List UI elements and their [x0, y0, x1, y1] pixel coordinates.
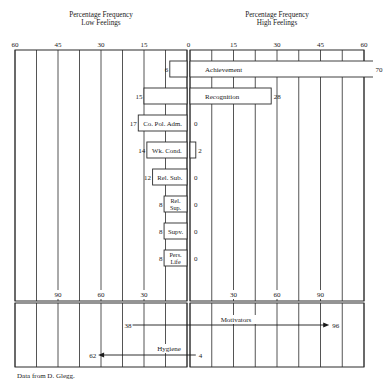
category-label-line2: Life [170, 258, 181, 265]
low-value-label: 14 [138, 147, 146, 155]
top-tick-high: 45 [317, 41, 325, 49]
bar-row-pers-life: Pers.Life80 [159, 250, 198, 266]
top-tick-low: 30 [98, 41, 106, 49]
summary-label: Motivators [221, 316, 252, 324]
low-value-label: 8 [159, 201, 163, 209]
summary-axis: 906030306090 [52, 290, 327, 299]
top-tick-high: 15 [230, 41, 238, 49]
low-value-label: 15 [136, 93, 144, 101]
source-note: Data from D. Glegg. [17, 372, 75, 380]
category-label: Achievement [205, 66, 242, 74]
header-low: Percentage Frequency Low Feelings [69, 11, 133, 27]
bar-row-wk-cond: Wk. Cond.142 [138, 142, 202, 158]
category-label: Supv. [168, 228, 184, 235]
low-title-line2: Low Feelings [81, 19, 121, 27]
top-axis: 60453015015304560 [12, 41, 369, 49]
low-value-label: 8 [159, 228, 163, 236]
category-label: Rel. Sub. [157, 174, 182, 181]
top-tick-high: 30 [274, 41, 282, 49]
arrow-right-icon [323, 323, 329, 328]
chart: Percentage Frequency Low Feelings Percen… [0, 0, 386, 387]
high-bar [190, 142, 196, 158]
factor-bars: Achievement670Recognition1528Co. Pol. Ad… [130, 61, 383, 266]
bar-row-co-pol-adm: Co. Pol. Adm.170 [130, 115, 198, 131]
low-value-label: 17 [130, 120, 138, 128]
low-value-label: 6 [165, 66, 169, 74]
summary-tick-low: 30 [141, 291, 149, 299]
bar-row-rel-sup: Rel.Sup.80 [159, 196, 198, 212]
high-value-label: 70 [376, 66, 384, 74]
high-value-label: 2 [198, 147, 202, 155]
low-value-label: 8 [159, 255, 163, 263]
category-label-line2: Sup. [170, 204, 182, 211]
top-tick-high: 60 [361, 41, 369, 49]
high-value-label: 0 [194, 174, 198, 182]
summary-low-value: 62 [89, 352, 97, 360]
summary-low-value: 38 [125, 322, 133, 330]
chart-canvas: Percentage Frequency Low Feelings Percen… [0, 0, 386, 387]
top-tick-low: 45 [55, 41, 63, 49]
category-label: Co. Pol. Adm. [143, 120, 182, 127]
category-label: Recognition [205, 93, 240, 101]
high-value-label: 0 [194, 201, 198, 209]
high-title-line1: Percentage Frequency [245, 11, 309, 19]
summary-arrow-motivators: Motivators3896 [125, 315, 340, 330]
top-tick-low: 15 [141, 41, 149, 49]
frames [15, 50, 364, 367]
summary-tick-high: 90 [317, 291, 325, 299]
summary-high-value: 96 [332, 322, 340, 330]
high-value-label: 0 [194, 255, 198, 263]
low-bar [144, 88, 187, 104]
summary-tick-low: 60 [98, 291, 106, 299]
high-value-label: 0 [194, 228, 198, 236]
top-tick-low: 60 [12, 41, 20, 49]
bar-row-achievement: Achievement670 [165, 61, 383, 77]
high-value-label: 28 [274, 93, 282, 101]
low-bar [170, 61, 187, 77]
summary-tick-high: 60 [274, 291, 282, 299]
low-title-line1: Percentage Frequency [69, 11, 133, 19]
category-label: Wk. Cond. [152, 147, 182, 154]
summary-arrow-hygiene: Hygiene462 [89, 344, 203, 360]
top-tick-low: 0 [187, 41, 191, 49]
bar-row-recognition: Recognition1528 [136, 88, 282, 104]
summary-high-value: 4 [199, 352, 203, 360]
high-title-line2: High Feelings [257, 19, 298, 27]
summary-tick-low: 90 [55, 291, 63, 299]
low-value-label: 12 [144, 174, 152, 182]
high-value-label: 0 [194, 120, 198, 128]
header-high: Percentage Frequency High Feelings [245, 11, 309, 27]
summary-label: Hygiene [157, 345, 181, 353]
summary-tick-high: 30 [230, 291, 238, 299]
bar-row-supv: Supv.80 [159, 223, 198, 239]
